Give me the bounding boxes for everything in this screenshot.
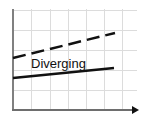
- diverging-lines-chart: Diverging: [0, 0, 145, 120]
- diverging-label: Diverging: [31, 57, 86, 70]
- x-axis-arrow-icon: [132, 106, 139, 114]
- series-upper-dashed: [13, 33, 115, 58]
